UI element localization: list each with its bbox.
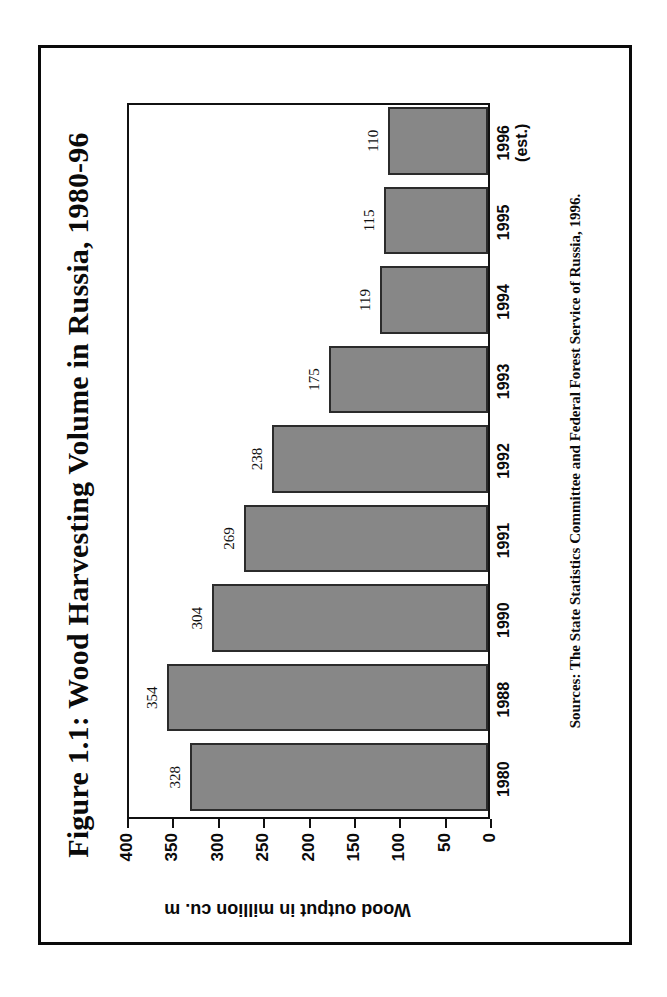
bar-slot: 119 <box>125 260 488 340</box>
value-axis-tick <box>399 819 401 828</box>
bar-value-label: 175 <box>307 340 322 420</box>
bar-slot: 110 <box>125 101 488 181</box>
bar-value-label: 238 <box>250 419 265 499</box>
value-axis-tick <box>445 819 447 828</box>
figure-title: Figure 1.1: Wood Harvesting Volume in Ru… <box>61 55 95 935</box>
category-label: 1980 <box>495 743 513 815</box>
value-axis-tick <box>172 819 174 828</box>
bar <box>212 584 488 652</box>
value-axis-tick-label: 300 <box>209 833 226 887</box>
bar-slot: 304 <box>125 578 488 658</box>
bar <box>167 664 488 732</box>
plot-area: 328354304269238175119115110 <box>127 103 490 819</box>
bar-slot: 328 <box>125 737 488 817</box>
value-axis-tick-label: 250 <box>254 833 271 887</box>
value-axis-tick-label: 350 <box>163 833 180 887</box>
bar-series: 328354304269238175119115110 <box>129 105 488 817</box>
source-note: Sources: The State Statistics Committee … <box>567 103 584 819</box>
value-axis-tick-label: 400 <box>118 833 135 887</box>
value-axis-tick <box>354 819 356 828</box>
bar <box>272 425 488 493</box>
bar <box>244 505 488 573</box>
category-label: 1995 <box>495 186 513 258</box>
value-axis-tick <box>218 819 220 828</box>
bar <box>190 743 488 811</box>
category-label: 1993 <box>495 345 513 417</box>
category-label: 1990 <box>495 584 513 656</box>
category-label: 1991 <box>495 505 513 577</box>
value-axis-tick <box>490 819 492 828</box>
bar-value-label: 304 <box>190 578 205 658</box>
bar-slot: 269 <box>125 499 488 579</box>
category-axis: 198019881990199119921993199419951996(est… <box>495 103 555 819</box>
bar-value-label: 269 <box>222 499 237 579</box>
category-label: 1988 <box>495 664 513 736</box>
bar <box>384 187 488 255</box>
value-axis-tick-label: 200 <box>300 833 317 887</box>
category-label: 1992 <box>495 425 513 497</box>
bar <box>380 266 488 334</box>
bar-slot: 238 <box>125 419 488 499</box>
bar-value-label: 115 <box>362 181 377 261</box>
value-axis-tick <box>309 819 311 828</box>
bar-value-label: 119 <box>358 260 373 340</box>
category-label-sub: (est.) <box>513 107 531 179</box>
value-axis-tick-label: 0 <box>481 833 498 887</box>
bar <box>329 346 488 414</box>
value-axis-tick-label: 50 <box>436 833 453 887</box>
bar <box>388 107 488 175</box>
rotated-figure: Figure 1.1: Wood Harvesting Volume in Ru… <box>55 55 615 935</box>
value-axis-tick <box>263 819 265 828</box>
category-label: 1994 <box>495 266 513 338</box>
bar-slot: 354 <box>125 658 488 738</box>
value-axis-tick-label: 150 <box>345 833 362 887</box>
bar-slot: 115 <box>125 181 488 261</box>
value-axis-title: Wood output in million cu. m <box>78 899 498 920</box>
bar-value-label: 110 <box>366 101 381 181</box>
page-frame: Figure 1.1: Wood Harvesting Volume in Ru… <box>38 45 632 945</box>
bar-slot: 175 <box>125 340 488 420</box>
category-label: 1996(est.) <box>495 107 532 179</box>
value-axis-tick <box>127 819 129 828</box>
bar-value-label: 354 <box>145 658 160 738</box>
bar-value-label: 328 <box>168 737 183 817</box>
value-axis-tick-label: 100 <box>390 833 407 887</box>
